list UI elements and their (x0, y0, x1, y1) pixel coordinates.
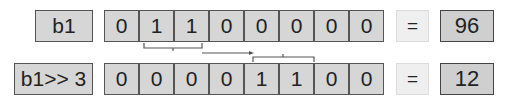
row2-label: b1>> 3 (14, 63, 93, 95)
row2-result: 12 (440, 63, 494, 95)
row2-bit-4: 1 (244, 63, 279, 95)
row2-bit-1: 0 (139, 63, 174, 95)
row2-bit-5: 1 (279, 63, 314, 95)
row2-bit-0: 0 (104, 63, 139, 95)
row2-bit-7: 0 (349, 63, 384, 95)
row2-bit-6: 0 (314, 63, 349, 95)
row2-equals: = (396, 63, 429, 95)
row2-bit-2: 0 (174, 63, 209, 95)
row2-bit-3: 0 (209, 63, 244, 95)
